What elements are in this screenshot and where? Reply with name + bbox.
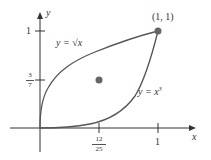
x-tick-12-25-label: 1225 (92, 136, 106, 153)
y-tick-3-7-label: 37 (26, 72, 34, 89)
sqrt-curve-label: y = √x (56, 38, 82, 48)
centroid-point (96, 77, 103, 84)
point-1-1 (155, 28, 162, 35)
x-axis-label: x (192, 132, 196, 142)
cube-curve-label: y = x3 (138, 86, 162, 97)
y-axis-arrow-icon (37, 12, 43, 19)
y-tick-1-label: 1 (26, 26, 31, 36)
y-axis-label: y (46, 8, 50, 18)
x-tick-1-label: 1 (155, 137, 160, 147)
point-label: (1, 1) (152, 12, 174, 22)
